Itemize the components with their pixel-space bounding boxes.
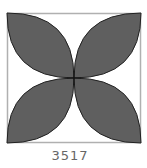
figure-label: 3517 <box>0 148 140 163</box>
petal-square-figure: 3517 <box>0 0 147 168</box>
petal-square-graphic <box>0 0 147 168</box>
